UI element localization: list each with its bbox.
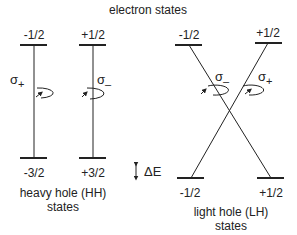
circular-arrow-icon xyxy=(37,88,53,98)
hh-hole-level-label-2: +3/2 xyxy=(81,166,105,180)
rotation-arrowhead-icon xyxy=(82,93,86,97)
circular-arrow-icon xyxy=(87,88,104,99)
circular-arrow-icon xyxy=(208,85,228,95)
hh-polarization-label-1: σ+ xyxy=(10,72,24,90)
lh-transition-line-2 xyxy=(191,43,268,178)
lh-polarization-label-1: σ– xyxy=(215,69,230,87)
rotation-arrowhead-icon xyxy=(36,93,41,97)
hh-electron-level-label-2: +1/2 xyxy=(81,28,105,42)
heavy-hole-group: -1/2 +1/2 -3/2 +3/2 σ+ σ– heavy hole (HH… xyxy=(10,28,112,214)
rotation-arrowhead-icon xyxy=(245,90,250,94)
splitting-label: ΔE xyxy=(144,164,162,179)
optical-selection-rules-diagram: electron states -1/2 +1/2 -3/2 +3/2 σ+ σ… xyxy=(0,0,297,235)
diagram-title: electron states xyxy=(109,3,187,17)
light-hole-group: -1/2 +1/2 -1/2 +1/2 σ– σ+ light hole (LH… xyxy=(175,26,284,233)
lh-hole-level-label-1: -1/2 xyxy=(180,186,201,200)
hh-electron-level-label-1: -1/2 xyxy=(24,28,45,42)
lh-polarization-label-2: σ+ xyxy=(258,69,272,87)
lh-caption-line-2: states xyxy=(215,219,247,233)
lh-transition-line-1 xyxy=(189,45,271,178)
rotation-arrowhead-icon xyxy=(201,90,205,94)
lh-hole-level-label-2: +1/2 xyxy=(259,186,283,200)
lh-electron-level-label-2: +1/2 xyxy=(256,26,280,40)
hh-polarization-label-2: σ– xyxy=(97,72,112,90)
hh-caption-line-1: heavy hole (HH) xyxy=(20,186,107,200)
hh-hole-level-label-1: -3/2 xyxy=(24,166,45,180)
energy-splitting: ΔE xyxy=(136,164,162,179)
lh-electron-level-label-1: -1/2 xyxy=(179,28,200,42)
lh-caption-line-1: light hole (LH) xyxy=(194,205,269,219)
hh-caption-line-2: states xyxy=(47,200,79,214)
